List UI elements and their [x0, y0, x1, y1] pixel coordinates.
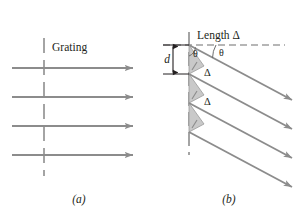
spacing-label: d [164, 53, 170, 65]
panel-b-caption: (b) [222, 193, 236, 206]
length-label: Length Δ [197, 29, 240, 42]
inner-angle-label: θ [193, 48, 198, 59]
figure-background [0, 0, 307, 217]
path-difference-label: Δ [204, 96, 211, 107]
figure-container: Grating (a) [0, 0, 307, 217]
grating-label: Grating [52, 41, 87, 54]
panel-a-caption: (a) [72, 193, 86, 206]
outer-angle-label: θ [219, 47, 224, 58]
grating-diffraction-figure: Grating (a) [0, 0, 307, 217]
path-difference-label: Δ [204, 67, 211, 78]
